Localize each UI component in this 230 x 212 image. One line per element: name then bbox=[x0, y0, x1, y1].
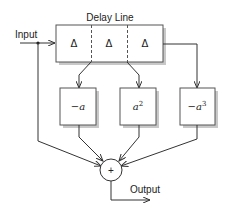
coefficient-box-1: −a bbox=[60, 88, 99, 128]
output-label: Output bbox=[130, 184, 160, 195]
tap-wire-2 bbox=[127, 62, 139, 88]
tap-wire-1 bbox=[79, 62, 91, 88]
coefficient-box-3: −a3 bbox=[180, 88, 218, 128]
sum-wire-2 bbox=[119, 125, 139, 161]
delay-line-title: Delay Line bbox=[86, 12, 134, 23]
tap-wire-3 bbox=[163, 44, 197, 88]
fir-filter-diagram: Delay Line Input Δ Δ Δ −a a2 −a3 + bbox=[0, 0, 230, 212]
delay-cell-2: Δ bbox=[106, 38, 113, 49]
svg-text:−a: −a bbox=[71, 101, 85, 112]
input-label: Input bbox=[15, 29, 37, 40]
delay-line: Δ Δ Δ bbox=[56, 25, 166, 65]
sum-wire-1 bbox=[79, 125, 103, 161]
coefficient-box-2: a2 bbox=[120, 88, 159, 128]
delay-cell-3: Δ bbox=[142, 38, 149, 49]
summer-plus-icon: + bbox=[108, 165, 114, 176]
delay-cell-1: Δ bbox=[71, 38, 78, 49]
